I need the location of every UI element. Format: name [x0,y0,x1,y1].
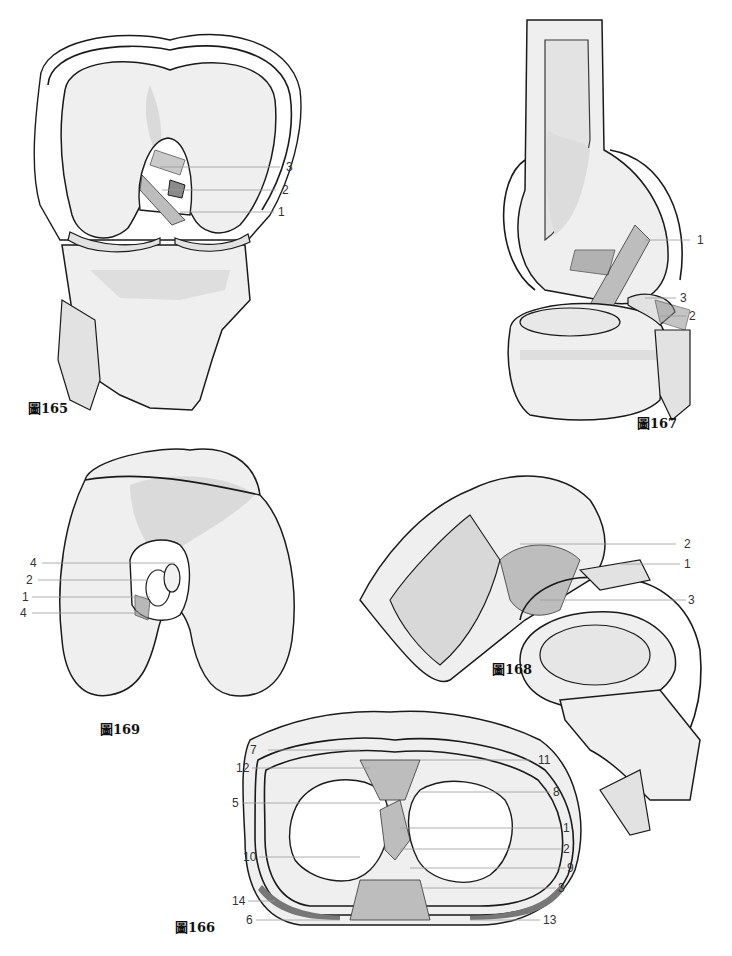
fig168-caption: 圖168 [492,662,532,677]
fig165-label-2: 2 [282,183,289,197]
fig166-label-14: 14 [232,894,246,908]
fig167-caption: 圖167 [637,416,677,431]
fig165-caption: 圖165 [28,401,68,416]
fig166-label-10: 10 [243,850,257,864]
figure-167-knee-sagittal-section [504,20,690,420]
fig166-label-7: 7 [250,743,257,757]
fig166-label-6: 6 [246,913,253,927]
fig165-label-1: 1 [278,205,285,219]
fig166-label-5: 5 [232,796,239,810]
fig168-label-1: 1 [684,557,691,571]
fig166-label-12: 12 [236,761,250,775]
figure-165-knee-anterior-view [34,34,301,410]
fig168-label-3: 3 [688,593,695,607]
fig166-label-8: 8 [553,785,560,799]
fig166-caption: 圖166 [175,920,215,935]
fig169-label-1: 1 [22,590,29,604]
fig169-caption: 圖169 [100,722,140,737]
fig166-label-11: 11 [538,753,551,767]
fig167-label-1: 1 [697,233,704,247]
figure-169-femur-distal-view [60,449,294,696]
fig166-label-3: 3 [558,881,565,895]
fig169-label-4-top: 4 [30,556,37,570]
fig166-label-1: 1 [563,821,570,835]
fig165-label-3: 3 [286,160,293,174]
fig169-label-2: 2 [26,573,33,587]
figure-166-tibial-plateau-superior-view [243,711,581,925]
fig168-label-2: 2 [684,537,691,551]
fig166-label-9: 9 [567,861,574,875]
fig167-label-3: 3 [680,291,687,305]
fig166-label-13: 13 [543,913,557,927]
fig169-label-4-bottom: 4 [20,606,27,620]
fig167-label-2: 2 [689,309,696,323]
knee-anatomy-plate: 3 2 1 圖165 1 3 2 圖167 [0,0,732,956]
fig166-label-2: 2 [563,842,570,856]
